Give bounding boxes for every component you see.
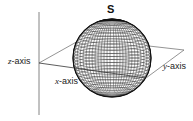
z-axis-suffix: -axis	[12, 56, 31, 66]
y-axis-label: y-axis	[163, 62, 186, 71]
y-axis-suffix: -axis	[167, 61, 186, 71]
x-axis-suffix: -axis	[59, 76, 78, 86]
z-axis-label: z-axis	[8, 57, 31, 66]
x-axis-label: x-axis	[55, 77, 78, 86]
sphere	[73, 19, 151, 98]
sphere-label: S	[107, 3, 114, 15]
